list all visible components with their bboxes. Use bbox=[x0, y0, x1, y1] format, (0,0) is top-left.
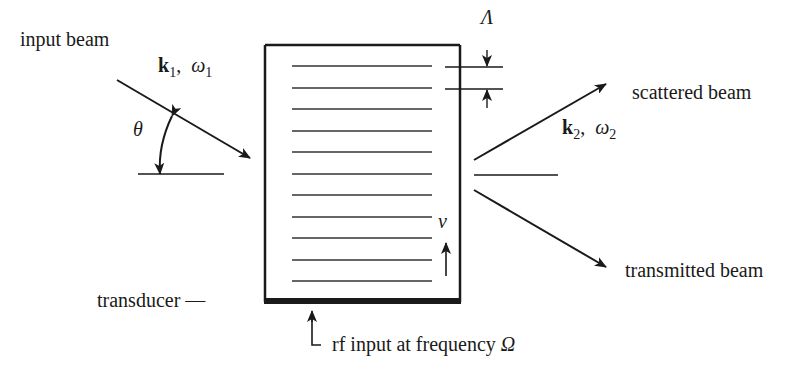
bragg-cell-diagram bbox=[0, 0, 810, 369]
omega2-symbol: ω bbox=[595, 116, 609, 138]
lambda-label: Λ bbox=[481, 7, 493, 27]
rf-input-text: rf input at frequency bbox=[332, 333, 496, 355]
k1-symbol: k bbox=[158, 54, 169, 76]
transducer-bar bbox=[264, 298, 461, 304]
transducer-label: transducer — bbox=[97, 290, 205, 310]
k1-omega1-label: k1, ω1 bbox=[158, 55, 212, 75]
omega1-subscript: 1 bbox=[205, 65, 212, 80]
theta-arc bbox=[160, 116, 172, 174]
comma: , bbox=[580, 116, 585, 138]
omega1-symbol: ω bbox=[191, 54, 205, 76]
comma: , bbox=[176, 54, 181, 76]
acoustic-wavefronts bbox=[292, 66, 432, 281]
wavelength-indicator bbox=[445, 50, 503, 108]
theta-label: θ bbox=[133, 119, 143, 139]
omega2-subscript: 2 bbox=[609, 127, 616, 142]
rf-input-label: rf input at frequency Ω bbox=[332, 334, 515, 354]
rf-input-arrow bbox=[312, 312, 321, 345]
rf-omega-symbol: Ω bbox=[501, 333, 515, 355]
velocity-label: v bbox=[438, 211, 447, 231]
transmitted-beam-arrow bbox=[474, 190, 606, 267]
transmitted-beam-label: transmitted beam bbox=[625, 260, 763, 280]
k2-omega2-label: k2, ω2 bbox=[562, 117, 616, 137]
input-beam-label: input beam bbox=[20, 29, 109, 49]
scattered-beam-label: scattered beam bbox=[632, 82, 751, 102]
k2-symbol: k bbox=[562, 116, 573, 138]
